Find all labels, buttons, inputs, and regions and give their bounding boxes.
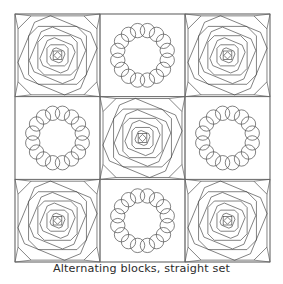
quilt-diagram (0, 0, 283, 284)
figure-root: Alternating blocks, straight set (0, 0, 283, 284)
figure-caption: Alternating blocks, straight set (0, 262, 283, 275)
